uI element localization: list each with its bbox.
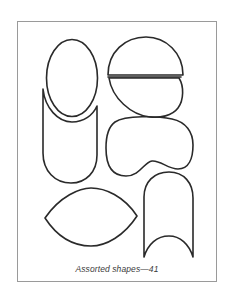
semicircle-shape xyxy=(108,37,183,75)
shapes-illustration xyxy=(0,0,226,303)
half-ellipse-shape xyxy=(109,78,183,117)
mask-shape xyxy=(106,117,193,176)
arch-concave-bottom xyxy=(144,172,193,257)
u-shape-concave-top xyxy=(43,89,97,183)
oval-shape xyxy=(47,40,98,117)
figure-caption: Assorted shapes—41 xyxy=(17,264,217,274)
lens-shape xyxy=(45,188,137,246)
figure-page: Assorted shapes—41 xyxy=(0,0,226,303)
